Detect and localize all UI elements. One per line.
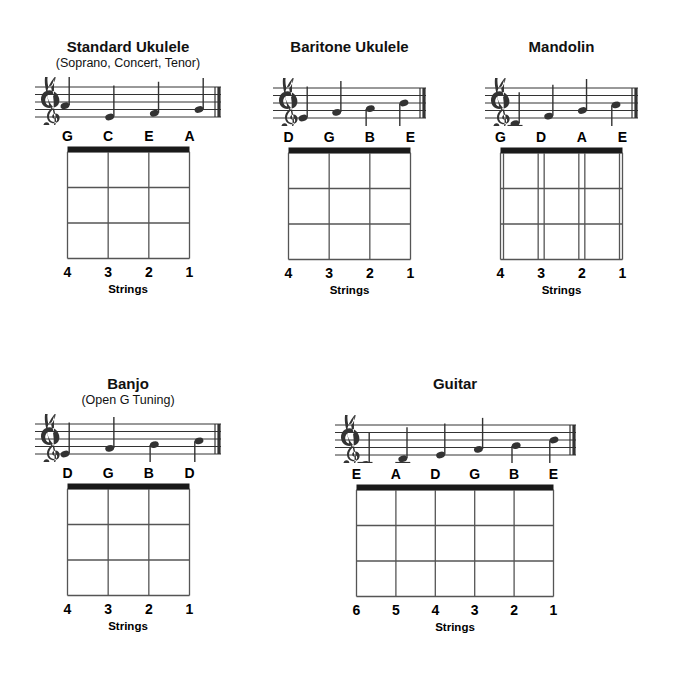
note-e — [549, 436, 560, 463]
note-name-row: EADGBE — [330, 465, 580, 483]
note-g — [104, 417, 115, 453]
instrument-title: Mandolin — [474, 38, 649, 56]
string-number: 4 — [431, 602, 439, 619]
note-label: E — [144, 127, 153, 145]
string-number: 3 — [537, 265, 545, 282]
music-staff — [271, 78, 428, 126]
string-number-row: 4321 — [33, 264, 223, 281]
fretboard-area — [66, 145, 191, 260]
instrument-subtitle: (Soprano, Concert, Tenor) — [33, 56, 223, 71]
instrument-title: Banjo — [33, 375, 223, 393]
note-d — [194, 436, 205, 462]
note-label: G — [324, 128, 335, 146]
note-label: G — [62, 127, 73, 145]
string-number: 6 — [353, 602, 361, 619]
string-number: 3 — [104, 264, 112, 281]
note-name-row: DGBE — [262, 128, 437, 146]
note-label: E — [352, 465, 361, 483]
string-number-row: 4321 — [262, 265, 437, 282]
note-label: A — [391, 465, 401, 483]
note-label: A — [577, 128, 587, 146]
music-staff — [33, 414, 223, 462]
strings-caption: Strings — [33, 619, 223, 633]
note-label: D — [62, 464, 72, 482]
note-label: D — [184, 464, 194, 482]
string-number: 4 — [285, 265, 293, 282]
note-e — [399, 99, 410, 126]
string-number: 4 — [64, 264, 72, 281]
treble-clef-icon — [491, 78, 510, 126]
note-label: E — [618, 128, 627, 146]
note-label: D — [283, 128, 293, 146]
string-number: 4 — [64, 601, 72, 618]
music-staff — [333, 415, 578, 463]
nut-bar — [68, 147, 190, 153]
strings-caption: Strings — [330, 620, 580, 634]
note-label: E — [549, 465, 558, 483]
note-c — [104, 86, 115, 122]
note-label: G — [495, 128, 506, 146]
note-label: G — [469, 465, 480, 483]
note-label: C — [103, 127, 113, 145]
nut-bar — [68, 484, 190, 490]
string-number: 2 — [510, 602, 518, 619]
fretboard-diagram — [66, 482, 191, 597]
instrument-title: Baritone Ukulele — [262, 38, 437, 56]
strings-caption: Strings — [33, 282, 223, 296]
note-b — [511, 441, 522, 463]
note-label: D — [536, 128, 546, 146]
note-g — [60, 77, 71, 110]
note-name-row: DGBD — [33, 464, 223, 482]
note-a — [194, 78, 205, 114]
instrument-title: Guitar — [330, 375, 580, 393]
instrument-subtitle: (Open G Tuning) — [33, 393, 223, 408]
instrument-standard-ukulele: Standard Ukulele(Soprano, Concert, Tenor… — [33, 38, 223, 296]
music-staff — [33, 77, 223, 125]
treble-clef-icon — [41, 77, 60, 125]
note-a — [577, 79, 588, 115]
fretboard-area — [499, 146, 624, 261]
note-name-row: GCEA — [33, 127, 223, 145]
string-number-row: 654321 — [330, 602, 580, 619]
note-name-row: GDAE — [474, 128, 649, 146]
barline-thick — [217, 87, 220, 117]
string-number-row: 4321 — [474, 265, 649, 282]
note-label: B — [365, 128, 375, 146]
string-number: 2 — [145, 264, 153, 281]
note-label: A — [184, 127, 194, 145]
music-staff — [483, 78, 640, 126]
treble-clef-icon — [41, 414, 60, 462]
fretboard-diagram — [499, 146, 624, 261]
fretboard-diagram — [66, 145, 191, 260]
string-number: 1 — [550, 602, 558, 619]
note-d — [298, 87, 309, 123]
note-d — [60, 423, 71, 459]
note-label: E — [406, 128, 415, 146]
string-number: 3 — [325, 265, 333, 282]
strings-caption: Strings — [262, 283, 437, 297]
instrument-guitar: GuitarEADGBE654321Strings — [330, 375, 580, 634]
barline-thick — [422, 88, 425, 118]
fretboard-area — [287, 146, 412, 261]
nut-bar — [501, 148, 623, 154]
notation-staff-area — [333, 415, 578, 463]
string-number: 5 — [392, 602, 400, 619]
string-number: 1 — [619, 265, 627, 282]
fretboard-diagram — [287, 146, 412, 261]
string-number: 3 — [471, 602, 479, 619]
notation-staff-area — [33, 77, 223, 125]
note-g — [473, 418, 484, 454]
string-number-row: 4321 — [33, 601, 223, 618]
string-number: 2 — [145, 601, 153, 618]
note-label: D — [430, 465, 440, 483]
notation-staff-area — [271, 78, 428, 126]
note-b — [365, 104, 376, 126]
note-d — [435, 424, 446, 460]
instrument-title: Standard Ukulele — [33, 38, 223, 56]
string-number: 2 — [366, 265, 374, 282]
instrument-mandolin: MandolinGDAE4321Strings — [474, 38, 649, 297]
string-number: 3 — [104, 601, 112, 618]
string-number: 1 — [186, 601, 194, 618]
fretboard-area — [66, 482, 191, 597]
treble-clef-icon — [341, 415, 360, 463]
